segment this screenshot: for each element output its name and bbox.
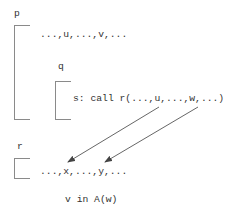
arrow-u-to-x [68, 107, 159, 162]
binding-arrows [0, 0, 242, 213]
arrow-w-to-y [105, 107, 198, 162]
alias-caption: v in A(w) [65, 195, 117, 205]
